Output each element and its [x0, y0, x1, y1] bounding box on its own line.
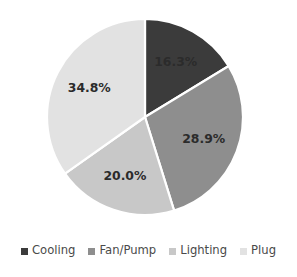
legend-label-lighting: Lighting [180, 245, 227, 257]
legend-item-cooling[interactable]: Cooling [21, 245, 75, 257]
legend-swatch-icon-fan-pump [88, 248, 95, 255]
legend-swatch-icon-cooling [21, 248, 28, 255]
pie-slice-label-plug: 34.8% [68, 80, 112, 95]
legend-label-fan-pump: Fan/Pump [99, 245, 156, 257]
chart-legend: CoolingFan/PumpLightingPlug [0, 236, 297, 266]
pie-slice-label-lighting: 20.0% [103, 168, 147, 183]
legend-item-fan-pump[interactable]: Fan/Pump [88, 245, 156, 257]
legend-swatch-icon-plug [240, 248, 247, 255]
pie-slice-label-cooling: 16.3% [154, 54, 198, 69]
legend-label-plug: Plug [251, 245, 276, 257]
legend-label-cooling: Cooling [32, 245, 75, 257]
pie-slice-label-fan-pump: 28.9% [182, 131, 226, 146]
pie-chart: 16.3%28.9%20.0%34.8% CoolingFan/PumpLigh… [0, 0, 297, 277]
pie-svg: 16.3%28.9%20.0%34.8% [0, 0, 297, 232]
legend-item-lighting[interactable]: Lighting [169, 245, 227, 257]
legend-swatch-icon-lighting [169, 248, 176, 255]
legend-item-plug[interactable]: Plug [240, 245, 276, 257]
pie-plot-area: 16.3%28.9%20.0%34.8% [0, 0, 297, 232]
